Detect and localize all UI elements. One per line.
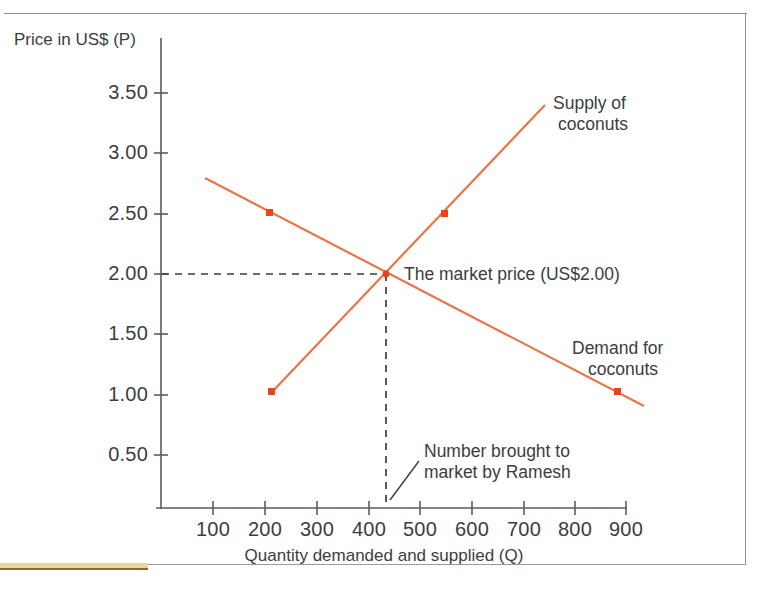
quantity-annotation-line2: market by Ramesh (424, 462, 571, 483)
y-tick-label-3.50: 3.50 (60, 81, 148, 104)
y-tick-label-1.00: 1.00 (60, 383, 148, 406)
demand-curve-label-line2: coconuts (588, 359, 658, 380)
supply-marker-200-1.00 (268, 388, 275, 395)
demand-marker-800-1.00 (614, 388, 621, 395)
y-tick-label-3.00: 3.00 (60, 141, 148, 164)
equilibrium-point (383, 271, 390, 278)
x-tick-label-900: 900 (596, 518, 656, 541)
y-tick-label-1.50: 1.50 (60, 322, 148, 345)
market-price-annotation: The market price (US$2.00) (404, 264, 620, 285)
quantity-annotation-line1: Number brought to (424, 441, 570, 462)
y-tick-label-2.00: 2.00 (60, 262, 148, 285)
x-tick-label-300: 300 (287, 518, 347, 541)
supply-marker-500-2.50 (441, 210, 448, 217)
x-tick-label-200: 200 (235, 518, 295, 541)
demand-curve-label-line1: Demand for (572, 338, 663, 359)
quantity-annotation-leader (390, 461, 419, 500)
y-tick-label-2.50: 2.50 (60, 202, 148, 225)
x-tick-label-600: 600 (442, 518, 502, 541)
y-axis-title: Price in US$ (P) (14, 30, 136, 50)
x-axis-title: Quantity demanded and supplied (Q) (234, 546, 534, 566)
demand-marker-200-2.50 (266, 209, 273, 216)
x-tick-label-500: 500 (390, 518, 450, 541)
demand-curve (205, 178, 644, 406)
figure-canvas: Price in US$ (P) Quantity demanded and s… (0, 0, 767, 590)
supply-curve (268, 105, 545, 395)
x-tick-label-100: 100 (183, 518, 243, 541)
y-tick-label-0.50: 0.50 (60, 443, 148, 466)
supply-curve-label-line2: coconuts (558, 114, 628, 135)
supply-curve-label-line1: Supply of (553, 93, 626, 114)
